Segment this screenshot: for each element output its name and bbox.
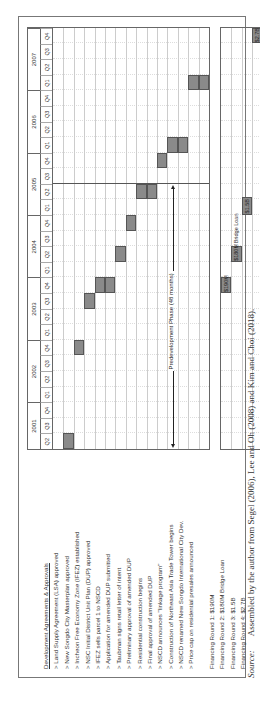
timeline-grid: 2001200220032004200520062007 Q2Q3Q4Q1Q2Q… [27, 29, 260, 450]
grid-column [53, 120, 209, 121]
grid-column [53, 386, 209, 387]
quarter-row: Q2Q3Q4Q1Q2Q3Q4Q1Q2Q3Q4Q1Q2Q3Q4Q1Q2Q3Q4Q1… [40, 28, 52, 449]
quarter-label: Q3 [40, 106, 52, 122]
grid-row [188, 28, 189, 449]
grid-row [84, 28, 85, 449]
grid-column [53, 245, 209, 246]
quarter-label: Q1 [40, 75, 52, 91]
grid-column [221, 74, 260, 75]
task-label: > Preliminary approval of amended DUP [124, 454, 134, 669]
grid-row [167, 28, 168, 449]
quarter-label: Q4 [40, 277, 52, 293]
quarter-label: Q1 [40, 200, 52, 216]
year-label: 2001 [28, 402, 40, 449]
task-bar [157, 153, 167, 169]
quarter-label: Q3 [40, 355, 52, 371]
quarter-label: Q3 [40, 168, 52, 184]
year-label: 2004 [28, 215, 40, 277]
task-bar [126, 215, 136, 231]
grid-column [53, 401, 209, 402]
financing-bar: $180M [231, 246, 241, 262]
task-label: > Final approval of amended DUP [145, 454, 155, 669]
quarter-label: Q2 [40, 246, 52, 262]
quarter-label: Q4 [40, 402, 52, 418]
grid-column [53, 89, 209, 90]
grid-column [221, 120, 260, 121]
task-bar [115, 246, 125, 262]
year-label: 2003 [28, 277, 40, 339]
quarter-label: Q1 [40, 262, 52, 278]
task-bar [105, 277, 115, 293]
task-label: > NSCD renamed New Songdo International … [176, 454, 186, 669]
grid-column [221, 105, 260, 106]
header-spacer [27, 454, 41, 669]
grid-row [136, 28, 137, 449]
grid-row [178, 28, 179, 449]
task-bar [95, 277, 105, 293]
quarter-label: Q4 [40, 90, 52, 106]
task-label: > Construction of Northeast Asia Trade T… [166, 454, 176, 669]
task-label: > Residential construction begins [135, 454, 145, 669]
grid-row [63, 28, 64, 449]
quarter-label: Q4 [40, 215, 52, 231]
task-label: > Price cap on residential presales anno… [186, 454, 196, 669]
quarter-label: Q3 [40, 293, 52, 309]
quarter-label: Q3 [40, 231, 52, 247]
timeline-header: 2001200220032004200520062007 Q2Q3Q4Q1Q2Q… [27, 27, 52, 450]
quarter-label: Q3 [40, 418, 52, 434]
year-label: 2007 [28, 28, 40, 90]
task-bar [84, 293, 94, 309]
financing-label: Financing Round 1: $190M [207, 454, 217, 669]
label-gap [197, 454, 207, 669]
phase-label: Predevelopment Phase (48 months) [168, 271, 174, 371]
grid-column [53, 198, 209, 199]
grid-column [53, 105, 209, 106]
grid-column [53, 74, 209, 75]
grid-column [221, 198, 260, 199]
grid-row [242, 28, 243, 449]
task-bar [199, 75, 209, 91]
quarter-label: Q2 [40, 433, 52, 449]
task-label: > IFEZ sells parcel 1 to NSCD [93, 454, 103, 669]
year-label: 2002 [28, 340, 40, 402]
quarter-label: Q1 [40, 324, 52, 340]
year-label: 2005 [28, 153, 40, 215]
grid-column [221, 214, 260, 215]
task-label: > New Songdo City Masterplan approved [62, 454, 72, 669]
quarter-label: Q1 [40, 387, 52, 403]
grid-column [53, 417, 209, 418]
quarter-label: Q4 [40, 340, 52, 356]
quarter-label: Q4 [40, 28, 52, 44]
row-labels: Development Agreements & Approvals> Land… [27, 454, 248, 669]
grid-row [105, 28, 106, 449]
task-bar [167, 137, 177, 153]
quarter-label: Q2 [40, 184, 52, 200]
grid-column [53, 58, 209, 59]
quarter-label: Q3 [40, 44, 52, 60]
task-bar [147, 184, 157, 200]
grid-column [53, 432, 209, 433]
task-area: Predevelopment Phase (48 months) [52, 27, 210, 450]
gantt-chart: Development Agreements & Approvals> Land… [18, 16, 246, 678]
quarter-label: Q1 [40, 137, 52, 153]
financing-label: Financing Round 2: $180M Bridge Loan [217, 454, 227, 669]
rotated-chart-container: Development Agreements & Approvals> Land… [0, 0, 260, 713]
task-bar [188, 75, 198, 91]
quarter-label: Q2 [40, 122, 52, 138]
section-header: Development Agreements & Approvals [41, 454, 51, 669]
year-row: 2001200220032004200520062007 [28, 28, 40, 449]
grid-row [95, 28, 96, 449]
grid-column [53, 261, 209, 262]
grid-row [147, 28, 148, 449]
grid-row [157, 28, 158, 449]
grid-column [53, 323, 209, 324]
bridge-loan-note: Bridge Loan [233, 214, 239, 244]
task-bar [63, 433, 73, 449]
grid-column [221, 136, 260, 137]
grid-column [221, 183, 260, 184]
task-label: > NSC Initial District Unit Plan (DUP) a… [83, 454, 93, 669]
task-label: > Incheon Free Economy Zone (IFEZ) estab… [72, 454, 82, 669]
task-bar [74, 340, 84, 356]
financing-bar: $2.7B [252, 28, 260, 44]
grid-row [74, 28, 75, 449]
